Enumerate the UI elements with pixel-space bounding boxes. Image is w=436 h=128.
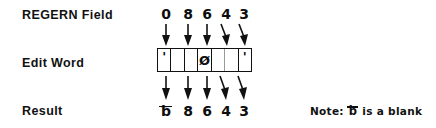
result-value: 3 xyxy=(237,103,251,119)
result-label: Result xyxy=(22,104,63,118)
edit-word-cell: ' xyxy=(158,49,171,71)
result-value: 4 xyxy=(219,103,233,119)
arrow-down-icon xyxy=(182,24,194,46)
arrow-down-icon xyxy=(236,24,252,46)
edit-word-cell xyxy=(225,49,238,71)
source-digit: 8 xyxy=(181,6,195,22)
note-suffix: is a blank xyxy=(362,105,422,117)
blank-symbol: ƀ xyxy=(161,103,171,119)
edit-word-cell-value: ' xyxy=(162,50,166,63)
arrow-down-icon xyxy=(218,24,234,46)
result-value: ƀ xyxy=(159,103,173,119)
source-digit: 3 xyxy=(237,6,251,22)
note-prefix: Note: xyxy=(310,105,344,117)
result-value: 8 xyxy=(181,103,195,119)
blank-symbol: ƀ xyxy=(349,104,358,118)
source-field-label: REGERN Field xyxy=(22,8,113,22)
result-value: 6 xyxy=(200,103,214,119)
arrow-down-icon xyxy=(160,76,172,100)
source-digit: 4 xyxy=(219,6,233,22)
edit-word-cell xyxy=(171,49,184,71)
arrow-down-icon xyxy=(201,76,213,100)
edit-word-diagram: REGERN Field Edit Word Result 0 8 6 4 3 xyxy=(0,0,436,128)
edit-word-label: Edit Word xyxy=(22,56,84,70)
edit-word-cell xyxy=(212,49,225,71)
edit-word-cell: Ø xyxy=(198,49,211,71)
edit-word-mask: ' Ø ' xyxy=(157,48,252,72)
source-digit: 6 xyxy=(200,6,214,22)
arrow-down-icon xyxy=(160,24,172,46)
arrow-down-icon xyxy=(235,76,251,100)
note: Note: ƀ is a blank xyxy=(310,104,422,118)
arrow-down-icon xyxy=(217,76,233,100)
edit-word-cell-value: ' xyxy=(243,50,247,63)
edit-word-cell xyxy=(185,49,198,71)
edit-word-cell: ' xyxy=(239,49,251,71)
edit-word-cell-value: Ø xyxy=(199,54,210,67)
arrow-down-icon xyxy=(182,76,194,100)
arrow-down-icon xyxy=(201,24,213,46)
source-digit: 0 xyxy=(159,6,173,22)
